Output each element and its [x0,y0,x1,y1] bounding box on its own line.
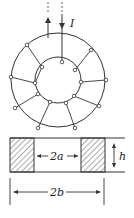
hatched-block-left [10,138,34,172]
hatched-block-right [81,138,105,172]
dimension-2b: 2b [10,178,104,205]
lead-wires: I [48,2,75,62]
dimension-2a: 2a [37,150,78,163]
dimension-h: h [112,143,126,168]
outer-circle [11,33,105,127]
windings [9,43,108,130]
outer-diameter-label: 2b [49,186,64,199]
height-label: h [119,150,126,163]
inner-diameter-label: 2a [49,150,64,163]
cross-section: 2a h 2b [10,138,126,205]
toroid-diagram: I [0,0,134,218]
current-label: I [69,17,75,30]
toroid-core [11,33,105,127]
